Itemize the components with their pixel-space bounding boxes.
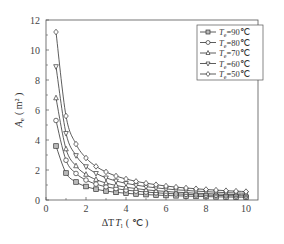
diamond-marker	[64, 113, 69, 119]
circle-marker	[54, 118, 59, 123]
legend-label: Te=90℃	[219, 27, 250, 38]
series-triangle-up	[54, 95, 249, 197]
y-tick-label: 6	[35, 105, 40, 116]
legend-label: Te=50℃	[219, 69, 250, 80]
diamond-marker	[124, 176, 129, 182]
y-tick-label: 10	[30, 45, 40, 56]
diamond-marker	[114, 173, 119, 179]
x-tick-label: 2	[84, 203, 89, 214]
x-tick-label: 4	[124, 203, 129, 214]
square-marker	[84, 184, 89, 189]
x-tick-label: 8	[204, 203, 209, 214]
legend: Te=90℃Te=80℃Te=70℃Te=60℃Te=50℃	[197, 25, 263, 80]
legend-label: Te=60℃	[219, 59, 250, 70]
triangle-down-marker	[84, 165, 89, 170]
y-tick-label: 2	[35, 165, 40, 176]
circle-marker	[84, 178, 89, 183]
triangle-up-marker	[64, 146, 69, 151]
square-marker	[54, 144, 59, 149]
triangle-down-marker	[64, 131, 69, 136]
circle-marker	[64, 158, 69, 163]
y-tick-label: 12	[30, 15, 40, 26]
series-triangle-down	[54, 65, 249, 196]
triangle-down-marker	[54, 65, 59, 70]
diamond-marker	[104, 169, 109, 175]
chart: 0246810024681012 Te=90℃Te=80℃Te=70℃Te=60…	[0, 0, 284, 244]
diamond-marker	[74, 141, 79, 147]
y-tick-label: 4	[35, 135, 40, 146]
triangle-up-marker	[54, 95, 59, 100]
series-square	[54, 144, 249, 200]
y-tick-label: 8	[35, 75, 40, 86]
x-tick-label: 0	[44, 203, 49, 214]
square-marker	[74, 180, 79, 185]
y-axis-label: Ae( m² )	[13, 93, 26, 129]
circle-marker	[74, 171, 79, 176]
legend-label: Te=80℃	[219, 38, 250, 49]
square-marker	[206, 30, 210, 34]
circle-marker	[94, 182, 99, 187]
circle-marker	[206, 41, 210, 45]
diamond-marker	[94, 164, 99, 170]
square-marker	[64, 171, 69, 176]
x-axis-label: ΔTTl( ℃ )	[102, 217, 149, 230]
x-tick-label: 10	[241, 203, 251, 214]
legend-label: Te=70℃	[219, 48, 250, 59]
x-tick-label: 6	[164, 203, 169, 214]
diamond-marker	[54, 29, 59, 35]
square-marker	[94, 187, 99, 192]
series-circle	[54, 118, 249, 198]
triangle-up-marker	[84, 172, 89, 177]
y-tick-label: 0	[35, 195, 40, 206]
